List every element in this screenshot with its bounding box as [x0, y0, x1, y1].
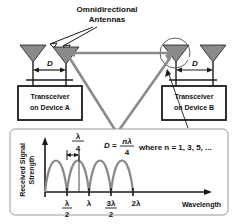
x-tick-label-4-numerator: 2λ: [132, 199, 141, 208]
antenna-b2-cone: [200, 45, 226, 62]
x-tick-label-2: λ: [87, 199, 92, 208]
x-tick-label-3-denominator: 2: [109, 210, 114, 219]
formula-equals: =: [112, 141, 117, 150]
device-a-label-line2: on Device A: [30, 104, 70, 111]
antenna-a1: [20, 45, 46, 88]
x-tick-label-3-numerator: 3λ: [107, 199, 116, 208]
callout-label-line2: Antennas: [89, 15, 126, 24]
x-tick-label-1-denominator: 2: [65, 210, 70, 219]
device-b-group: D Transceiver on Device B: [160, 38, 226, 120]
device-b-box: Transceiver on Device B: [162, 80, 226, 120]
formula-condition: where n = 1, 3, 5, ...: [138, 143, 212, 152]
device-a-box: Transceiver on Device A: [18, 80, 82, 120]
device-a-dim-arrow-left: [33, 68, 39, 73]
x-axis-label: Wavelength: [182, 201, 221, 209]
device-b-dim-arrow-right: [207, 68, 213, 73]
formula-denominator: 4: [125, 148, 130, 157]
null-point-callout-arrowhead: [165, 69, 171, 77]
quarter-wavelength-numerator: λ: [76, 132, 81, 141]
antenna-a1-cone: [20, 45, 46, 62]
figure-canvas: Omnidirectional Antennas: [0, 0, 233, 224]
device-a-dim-arrow-right: [60, 68, 66, 73]
device-a-group: D Transceiver on Device A: [18, 45, 82, 120]
y-axis-label-line1: Received Signal: [19, 143, 27, 197]
device-b-enclosure: [162, 86, 226, 120]
figure-root: Omnidirectional Antennas: [0, 0, 233, 224]
formula-numerator: nλ: [122, 137, 131, 146]
callout-label-line1: Omnidirectional: [77, 5, 138, 14]
x-tick-label-2-numerator: λ: [87, 199, 92, 208]
x-tick-label-1-numerator: λ: [65, 199, 70, 208]
y-axis-label-line2: Strength: [28, 156, 36, 185]
quarter-wavelength-denominator: 4: [76, 144, 81, 153]
formula-lhs: D: [104, 141, 110, 150]
device-a-spacing-label: D: [47, 59, 53, 68]
x-tick-label-4: 2λ: [132, 199, 141, 208]
device-a-enclosure: [18, 86, 82, 120]
top-diagram: Omnidirectional Antennas: [18, 5, 226, 133]
callout-leader-lines: [50, 27, 97, 50]
device-b-spacing-label: D: [192, 59, 198, 68]
antenna-b2: [200, 45, 226, 88]
device-a-spacing-dimension: D: [33, 57, 66, 73]
device-a-label-line1: Transceiver: [31, 93, 70, 100]
chart-panel: Received Signal Strength Wavelength: [10, 129, 228, 219]
device-b-spacing-dimension: D: [176, 57, 213, 73]
device-b-label-line1: Transceiver: [175, 93, 214, 100]
